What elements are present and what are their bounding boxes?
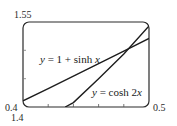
y-max-label: 1.55 <box>14 9 32 20</box>
label-sinh-curve: y = 1 + sinh x <box>39 53 100 65</box>
chart: 1.55 0.4 1.4 0.5 y = 1 + sinh x y = cosh… <box>0 0 177 126</box>
y-min-label: 1.4 <box>11 112 24 123</box>
label-cosh-curve: y = cosh 2x <box>91 86 142 98</box>
x-max-label: 0.5 <box>153 102 166 113</box>
